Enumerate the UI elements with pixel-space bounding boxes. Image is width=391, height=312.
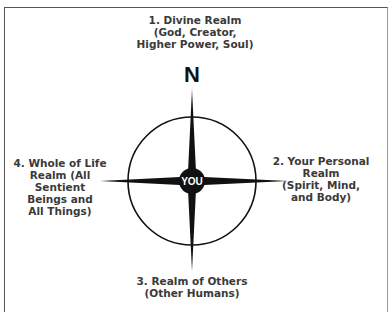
realm-west-title: 4. Whole of Life (6, 157, 114, 169)
center-label: YOU (181, 176, 203, 187)
realm-south-title: 3. Realm of Others (122, 275, 262, 287)
realm-west-line-3: Beings and (6, 193, 114, 205)
realm-west-line-2: Realm (All Sentient (6, 169, 114, 193)
south-arm (188, 190, 196, 271)
realm-label-west: 4. Whole of Life Realm (All Sentient Bei… (6, 157, 114, 217)
realm-label-south: 3. Realm of Others (Other Humans) (122, 275, 262, 299)
north-arm (188, 89, 196, 172)
realm-east-line-3: and Body) (256, 191, 386, 203)
realm-label-east: 2. Your Personal Realm (Spirit, Mind, an… (256, 155, 386, 203)
realm-east-title: 2. Your Personal Realm (256, 155, 386, 179)
realm-west-line-4: All Things) (6, 205, 114, 217)
realm-south-line-2: (Other Humans) (122, 287, 262, 299)
realm-east-line-2: (Spirit, Mind, (256, 179, 386, 191)
